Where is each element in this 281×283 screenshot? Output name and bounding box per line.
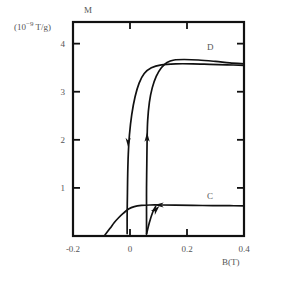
curve-upper-saturation-branch-descending	[127, 64, 244, 234]
annotation-label-c: C	[207, 191, 213, 201]
y-axis-units-label: (10−9 T/g)	[14, 21, 51, 32]
curve-upper-saturation-branch-ascending	[147, 60, 244, 234]
y-tick-label: 2	[49, 135, 65, 145]
direction-arrows	[126, 132, 164, 215]
hysteresis-plot	[0, 0, 281, 283]
y-tick-label: 4	[49, 39, 65, 49]
data-curves	[105, 60, 244, 236]
x-tick-label: 0	[110, 244, 150, 254]
y-axis-label: M	[84, 6, 92, 15]
y-tick-label: 3	[49, 87, 65, 97]
annotation-label-d: D	[207, 42, 214, 52]
y-tick-label: 1	[49, 183, 65, 193]
x-axis-label: B(T)	[222, 258, 240, 267]
arrow-down-arrow-descending-branch	[126, 138, 131, 147]
curve-lower-minor-loop-branch	[105, 205, 244, 235]
figure-root: M (10−9 T/g) B(T) D C 1234-0.200.20.4	[0, 0, 281, 283]
x-tick-label: 0.4	[224, 244, 264, 254]
x-tick-label: 0.2	[167, 244, 207, 254]
x-tick-label: -0.2	[53, 244, 93, 254]
